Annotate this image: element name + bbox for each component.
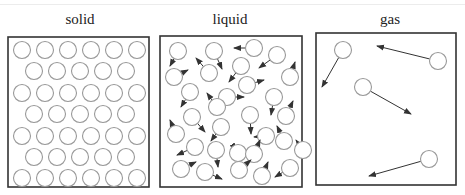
velocity-arrow-icon [271,105,273,115]
particle [201,65,218,82]
particle [282,160,299,177]
particle [26,63,43,80]
velocity-arrow-icon [277,126,280,133]
velocity-arrow-icon [377,46,430,59]
velocity-arrow-icon [265,162,268,168]
particle [173,161,190,178]
velocity-arrow-icon [207,93,212,100]
particle [278,108,295,125]
particle [60,85,77,102]
particle [37,42,54,59]
particle [254,168,271,185]
velocity-arrow-icon [296,140,298,143]
velocity-arrow-icon [196,58,203,67]
particle [60,42,77,59]
velocity-arrow-icon [229,73,236,82]
velocity-arrow-icon [217,158,218,167]
particle [246,40,263,57]
particle [26,149,43,166]
particle [213,119,230,136]
velocity-arrow-icon [217,59,222,69]
velocity-arrow-icon [211,134,216,141]
velocity-arrow-icon [213,175,222,179]
velocity-arrow-icon [250,123,251,134]
velocity-arrow-icon [259,60,270,68]
particle [83,170,100,187]
particle [282,69,299,86]
velocity-arrow-icon [182,70,188,73]
particle [168,126,185,143]
particle [295,142,312,159]
particle [242,107,259,124]
particle [129,170,146,187]
particle [72,106,89,123]
particle [14,128,31,145]
particle [206,43,223,60]
particle [37,128,54,145]
particle [233,58,250,75]
particle [118,63,135,80]
velocity-arrow-icon [255,80,264,83]
particle [209,99,226,116]
particle [26,106,43,123]
particle [129,128,146,145]
velocity-arrow-icon [181,99,186,107]
particle [335,42,352,59]
velocity-arrow-icon [177,150,187,155]
velocity-arrow-icon [170,120,173,126]
particle [95,106,112,123]
particle [430,53,447,70]
solid-particles [14,42,146,187]
velocity-arrow-icon [322,57,339,87]
particle [129,42,146,59]
particle [83,85,100,102]
particle [170,43,187,60]
particle [95,63,112,80]
velocity-arrow-icon [275,172,283,177]
particle [72,63,89,80]
particle [118,106,135,123]
particle [266,89,283,106]
velocity-arrow-icon [290,101,293,108]
velocity-arrow-icon [198,123,205,132]
particle [187,139,204,156]
particle [230,145,247,162]
particle [106,42,123,59]
velocity-arrow-icon [293,62,295,69]
particle [106,128,123,145]
states-of-matter-diagram [0,0,465,195]
particle [49,63,66,80]
particle [106,85,123,102]
particle [49,149,66,166]
particle [14,170,31,187]
particle [83,42,100,59]
particle [95,149,112,166]
particle [72,149,89,166]
gas-particles [322,42,447,177]
particle [258,128,275,145]
particle [184,109,201,126]
particle [421,151,438,168]
particle [129,85,146,102]
particle [197,164,214,181]
particle [182,84,199,101]
velocity-arrow-icon [370,91,411,114]
particle [60,128,77,145]
particle [208,142,225,159]
particle [166,69,183,86]
particle [118,149,135,166]
velocity-arrow-icon [189,162,196,165]
particle [37,170,54,187]
particle [49,106,66,123]
particle [231,162,248,179]
liquid-particles [166,40,312,185]
particle [246,146,263,163]
particle [355,79,372,96]
particle [276,133,293,150]
velocity-arrow-icon [369,161,421,176]
particle [83,128,100,145]
particle [269,47,286,64]
particle [14,85,31,102]
velocity-arrow-icon [170,59,174,67]
particle [14,42,31,59]
